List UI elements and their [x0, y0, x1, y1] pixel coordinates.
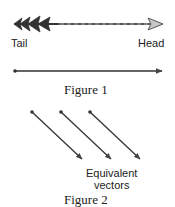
figure-1-caption: Figure 1 — [64, 83, 108, 97]
tail-label: Tail — [11, 37, 28, 49]
head-label: Head — [138, 37, 164, 49]
figure-2-caption: Figure 2 — [64, 193, 108, 207]
equivalent-vectors-icon — [30, 110, 140, 159]
feathered-arrow-icon — [14, 16, 163, 32]
annotation-line-1: Equivalent — [86, 167, 137, 179]
annotation-line-2: vectors — [94, 179, 129, 191]
vector-line-icon — [13, 69, 162, 73]
